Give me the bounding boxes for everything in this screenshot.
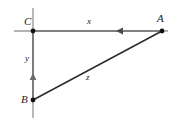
vertex-label-b: B [21,94,28,105]
vertex-label-a: A [157,13,164,24]
vertex-dot-B [31,98,36,103]
vertex-dot-A [160,29,165,34]
segment-label-y: y [25,54,29,63]
segment-z-line [33,31,162,100]
arrowhead-y-icon [30,73,37,80]
vertex-dot-C [31,29,36,34]
segment-label-x: x [87,17,91,26]
geometry-diagram: C A B x y z [0,0,179,125]
arrowhead-x-icon [116,28,123,35]
segment-label-z: z [86,73,90,82]
vertex-label-c: C [24,16,31,27]
